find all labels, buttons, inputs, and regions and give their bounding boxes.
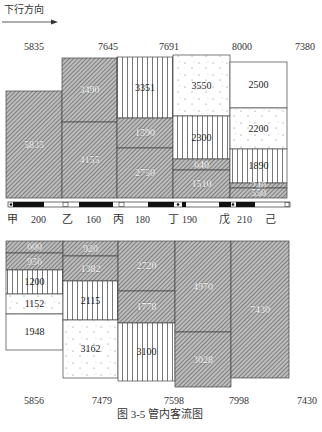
station-label: 戊 (219, 213, 230, 225)
lower-flow-value: 1200 (25, 276, 45, 287)
upper-flow-value: 2750 (135, 167, 155, 178)
lower-flow-value: 7430 (250, 304, 270, 315)
upper-flow-value: 5835 (24, 139, 44, 150)
lower-flow-value: 600 (27, 241, 42, 252)
top-total: 7691 (159, 41, 179, 52)
line-track-bar (8, 202, 290, 207)
bottom-total: 7430 (297, 395, 317, 406)
upper-flow-blocks: 5835349041553351159027503550230064015102… (6, 55, 287, 198)
upper-flow-value: 1590 (135, 127, 155, 138)
lower-flow-value: 4970 (193, 281, 213, 292)
top-totals: 5835 7645 7691 8000 7380 (24, 41, 315, 52)
upper-flow-value: 4155 (80, 154, 100, 165)
upper-flow-value: 2500 (249, 79, 269, 90)
station-label: 乙 (62, 213, 73, 225)
upper-flow-value: 3550 (192, 80, 212, 91)
station-label: 丁 (168, 213, 179, 225)
lower-flow-value: 2115 (81, 295, 101, 306)
lower-flow-value: 1382 (81, 263, 101, 274)
lower-flow-value: 3028 (193, 354, 213, 365)
top-total: 7380 (295, 41, 315, 52)
bottom-total: 7598 (164, 395, 184, 406)
passenger-flow-diagram: 下行方向 5835 7645 7691 8000 7380 5835349041… (0, 0, 322, 432)
top-total: 7645 (98, 41, 118, 52)
lower-flow-value: 956 (27, 256, 42, 267)
station-marker (232, 203, 235, 206)
distance-label: 180 (135, 214, 150, 225)
bottom-total: 5856 (24, 395, 44, 406)
station-row: 甲 200 乙 160 丙 180 丁 190 戊 210 己 (7, 213, 276, 225)
distance-label: 200 (31, 214, 46, 225)
lower-flow-value: 1948 (25, 326, 45, 337)
top-total: 8000 (232, 41, 252, 52)
bottom-totals: 5856 7479 7598 7998 7430 (24, 395, 317, 406)
lower-flow-value: 3162 (81, 343, 101, 354)
station-label: 甲 (7, 213, 18, 225)
bottom-total: 7479 (92, 395, 112, 406)
upper-flow-value: 1890 (249, 160, 269, 171)
upper-flow-value: 2300 (192, 132, 212, 143)
direction-arrow-icon (2, 20, 58, 25)
upper-flow-value: 1510 (192, 178, 212, 189)
direction-label: 下行方向 (4, 3, 44, 15)
lower-flow-value: 920 (83, 243, 98, 254)
station-label: 己 (265, 213, 276, 225)
top-total: 5835 (24, 41, 44, 52)
distance-label: 190 (182, 214, 197, 225)
upper-flow-value: 3490 (80, 84, 100, 95)
upper-flow-value: 2200 (249, 123, 269, 134)
lower-flow-blocks: 6009561200115219489201382211531622720177… (6, 241, 289, 387)
distance-label: 210 (237, 214, 252, 225)
lower-flow-value: 1152 (25, 298, 45, 309)
lower-flow-value: 2720 (137, 260, 157, 271)
bottom-total: 7998 (229, 395, 249, 406)
station-marker (177, 203, 180, 206)
lower-flow-value: 1778 (137, 301, 157, 312)
lower-flow-value: 3100 (137, 346, 157, 357)
station-marker (10, 203, 13, 206)
distance-label: 160 (86, 214, 101, 225)
station-label: 丙 (113, 213, 124, 225)
upper-flow-value: 550 (251, 187, 266, 198)
upper-flow-value: 640 (194, 159, 209, 170)
figure-caption: 图 3-5 管内客流图 (117, 407, 203, 420)
upper-flow-value: 3351 (135, 82, 155, 93)
